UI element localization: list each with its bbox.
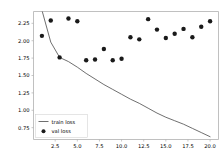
x-tick-label: 17.5 [182, 143, 194, 149]
legend-marker-val-loss [42, 129, 46, 133]
legend-label-val-loss: val loss [52, 128, 72, 134]
x-tick-label: 12.5 [138, 143, 150, 149]
x-tick-label: 7.5 [95, 143, 103, 149]
x-tick-label: 10.0 [116, 143, 128, 149]
y-tick-label: 1.75 [18, 55, 30, 61]
chart-legend: train loss val loss [36, 115, 88, 138]
val-loss-point [102, 47, 106, 51]
val-loss-point [155, 27, 159, 31]
val-loss-point [137, 37, 141, 41]
x-tick-label: 2.5 [51, 143, 59, 149]
val-loss-point [199, 25, 203, 29]
chart-canvas: 0.751.001.251.501.752.002.25 2.55.07.510… [0, 0, 222, 168]
val-loss-point [164, 36, 168, 40]
val-loss-point [84, 58, 88, 62]
y-tick-label: 1.00 [18, 107, 30, 113]
x-tick-label: 15.0 [160, 143, 172, 149]
val-loss-point [181, 27, 185, 31]
val-loss-point [172, 32, 176, 36]
val-loss-point [75, 19, 79, 23]
val-loss-point [66, 16, 70, 20]
x-tick-label: 5.0 [73, 143, 81, 149]
val-loss-point [208, 19, 212, 23]
val-loss-point [57, 55, 61, 59]
val-loss-point [40, 34, 44, 38]
y-tick-label: 2.00 [18, 38, 30, 44]
val-loss-point [128, 35, 132, 39]
y-tick-label: 2.25 [18, 20, 30, 26]
y-tick-label: 0.75 [18, 125, 30, 131]
val-loss-point [119, 57, 123, 61]
val-loss-point [146, 17, 150, 21]
x-tick-label: 20.0 [204, 143, 216, 149]
loss-chart-figure: 0.751.001.251.501.752.002.25 2.55.07.510… [0, 0, 222, 168]
val-loss-point [93, 57, 97, 61]
val-loss-point [111, 58, 115, 62]
legend-label-train-loss: train loss [52, 119, 76, 125]
y-tick-label: 1.50 [18, 72, 30, 78]
y-tick-label: 1.25 [18, 90, 30, 96]
val-loss-point [49, 18, 53, 22]
val-loss-point [190, 35, 194, 39]
